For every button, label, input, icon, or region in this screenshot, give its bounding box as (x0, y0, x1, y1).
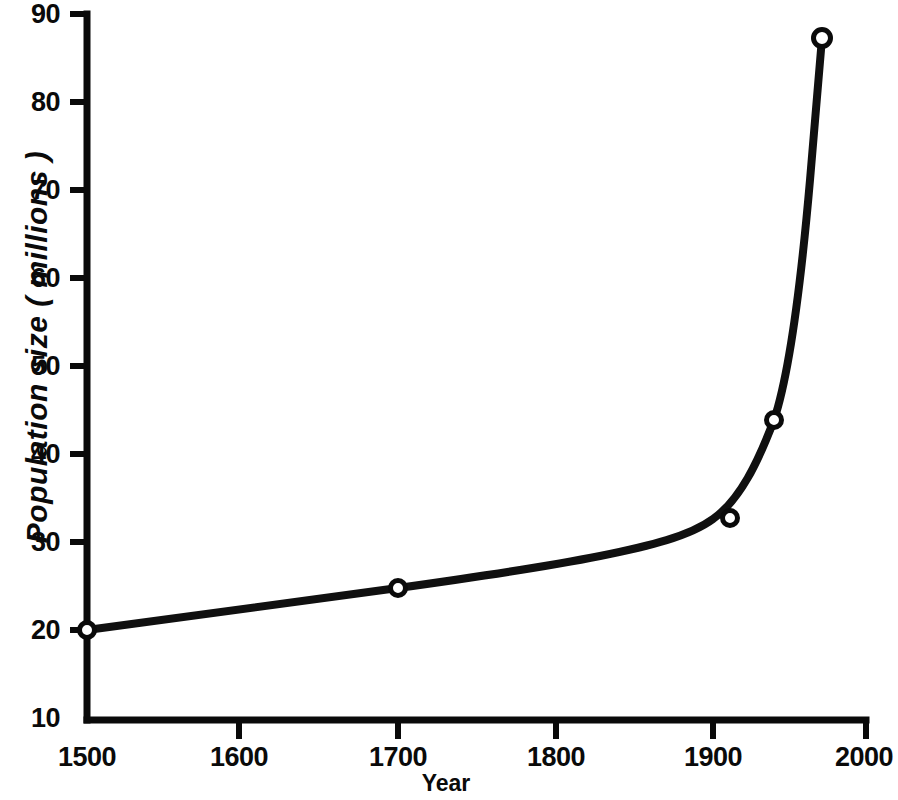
data-point-1970 (814, 30, 831, 47)
y-axis-title: Population size ( millions ) (22, 67, 52, 627)
x-axis-title: Year (0, 772, 892, 795)
y-tick-label-90: 90 (0, 1, 60, 28)
x-tick-label-1800: 1800 (506, 744, 606, 771)
x-tick-label-1700: 1700 (348, 744, 448, 771)
x-tick-label-1600: 1600 (189, 744, 289, 771)
data-point-1911 (723, 511, 738, 526)
data-point-1941 (767, 413, 782, 428)
y-tick-label-10: 10 (0, 705, 60, 732)
data-point-1700 (391, 581, 406, 596)
population-curve (87, 38, 822, 630)
data-point-1500 (80, 623, 95, 638)
x-tick-label-1500: 1500 (37, 744, 137, 771)
x-tick-label-2000: 2000 (814, 744, 898, 771)
data-point-markers (80, 30, 831, 638)
x-tick-label-1900: 1900 (663, 744, 763, 771)
